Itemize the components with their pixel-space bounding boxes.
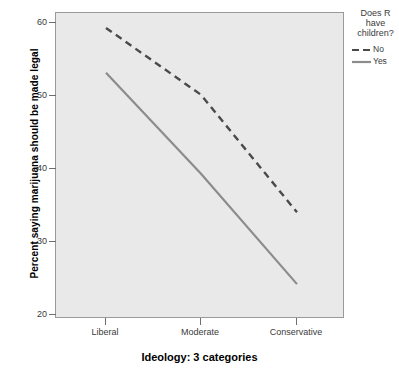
legend: Does R have children? No Yes bbox=[352, 8, 399, 68]
series-line-yes bbox=[106, 73, 297, 284]
legend-title-line-1: Does R bbox=[352, 8, 399, 18]
solid-line-swatch-icon bbox=[352, 57, 371, 67]
plot-area bbox=[55, 12, 344, 318]
legend-item-yes[interactable]: Yes bbox=[352, 56, 399, 67]
y-tick-mark-30 bbox=[49, 241, 56, 242]
y-tick-mark-20 bbox=[49, 314, 56, 315]
x-axis-title: Ideology: 3 categories bbox=[55, 351, 344, 363]
y-tick-mark-40 bbox=[49, 168, 56, 169]
legend-entries: No Yes bbox=[352, 44, 399, 67]
legend-title: Does R have children? bbox=[352, 8, 399, 38]
dashed-line-swatch-icon bbox=[352, 45, 371, 55]
x-tick-label-moderate: Moderate bbox=[155, 327, 245, 337]
y-tick-mark-60 bbox=[49, 22, 56, 23]
legend-label-yes: Yes bbox=[373, 56, 387, 67]
y-tick-label-60: 60 bbox=[37, 17, 47, 27]
legend-item-no[interactable]: No bbox=[352, 44, 399, 55]
x-tick-label-conservative: Conservative bbox=[251, 327, 341, 337]
legend-title-line-3: children? bbox=[352, 28, 399, 38]
y-tick-60: 60 bbox=[0, 17, 56, 27]
legend-title-line-2: have bbox=[352, 18, 399, 28]
x-tick-mark-liberal bbox=[105, 318, 106, 325]
x-axis: Liberal Moderate Conservative Ideology: … bbox=[0, 318, 399, 369]
plot-lines-svg bbox=[56, 13, 345, 319]
chart-figure: 60 50 40 30 20 Percent saying marijuana … bbox=[0, 0, 399, 369]
legend-label-no: No bbox=[373, 44, 384, 55]
y-axis-title: Percent saying marijuana should be made … bbox=[29, 34, 40, 294]
x-tick-mark-conservative bbox=[296, 318, 297, 325]
y-tick-mark-50 bbox=[49, 95, 56, 96]
x-tick-mark-moderate bbox=[200, 318, 201, 325]
series-line-no bbox=[106, 28, 297, 212]
x-tick-label-liberal: Liberal bbox=[60, 327, 150, 337]
